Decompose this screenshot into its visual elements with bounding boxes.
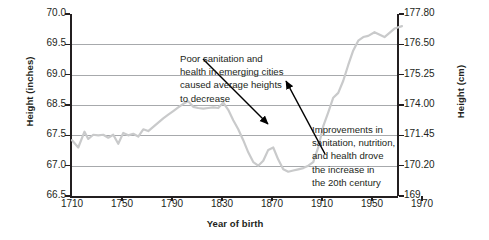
- annotation-increase-line-2: sanitation, nutrition,: [312, 136, 416, 149]
- chart-figure: Height (inches) Height (cm) Year of birt…: [0, 0, 489, 240]
- annotation-increase-line-4: the increase in: [312, 163, 416, 176]
- tick-mark: [421, 196, 422, 201]
- annotation-decline-line-2: health in emerging cities: [180, 65, 300, 78]
- y-tick-label-left: 67.5: [20, 128, 66, 139]
- annotation-increase-line-3: and health drove: [312, 149, 416, 162]
- annotation-decline-line-1: Poor sanitation and: [180, 52, 300, 65]
- annotation-decline-line-3: caused average heights: [180, 78, 300, 91]
- y-tick-label-left: 67.0: [20, 159, 66, 170]
- y-tick-label-left: 69.0: [20, 68, 66, 79]
- y-tick-label-right: 177.80: [404, 7, 464, 18]
- y-tick-label-left: 70.0: [20, 7, 66, 18]
- annotation-increase-line-5: the 20th century: [312, 176, 416, 189]
- y-tick-label-left: 68.5: [20, 98, 66, 109]
- tick-mark: [399, 104, 404, 105]
- annotation-decline-line-4: to decrease: [180, 92, 300, 105]
- annotation-increase-line-1: Improvements in: [312, 123, 416, 136]
- y-tick-label-left: 69.5: [20, 37, 66, 48]
- annotation-decline: Poor sanitation and health in emerging c…: [180, 52, 300, 105]
- x-axis-label: Year of birth: [72, 218, 398, 229]
- y-tick-label-right: 175.25: [404, 68, 464, 79]
- tick-mark: [399, 195, 404, 196]
- tick-mark: [399, 44, 404, 45]
- tick-mark: [399, 13, 404, 14]
- y-tick-label-right: 174.00: [404, 98, 464, 109]
- annotation-increase: Improvements in sanitation, nutrition, a…: [312, 123, 416, 189]
- tick-mark: [399, 74, 404, 75]
- x-tick-label: 1710: [47, 198, 97, 209]
- axis-line-bottom: [70, 196, 398, 198]
- y-tick-label-right: 176.50: [404, 37, 464, 48]
